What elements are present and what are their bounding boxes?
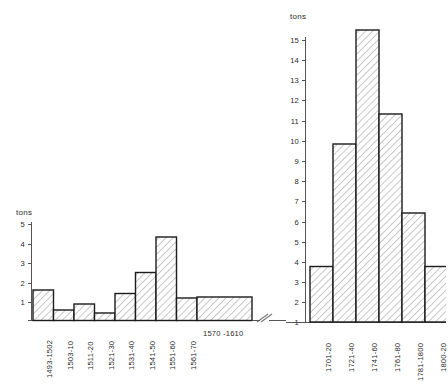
left-xtick-label-1511-20: 1511-20 (87, 341, 95, 370)
right-ytick-label-10: 10 (285, 138, 299, 146)
bar-1551-60 (156, 237, 177, 321)
left-ytick-label-3: 3 (14, 260, 25, 268)
bar-1570-1610 (197, 297, 252, 321)
right-ytick-label-8: 8 (285, 178, 299, 186)
axis-break-marker (252, 314, 286, 322)
left-y-axis-unit-label: tons (16, 209, 32, 217)
bar-1781-1800 (402, 213, 425, 322)
left-xtick-label-1493-1502: 1493-1502 (46, 340, 54, 378)
right-y-axis-unit-label: tons (290, 13, 306, 21)
right-ytick-label-5: 5 (285, 239, 299, 247)
bar-1741-60 (356, 30, 379, 322)
bar-1701-20 (310, 267, 333, 323)
right-ytick-label-14: 14 (285, 57, 299, 65)
bar-1521-30 (95, 313, 116, 321)
left-xtick-label-1503-10: 1503-10 (67, 341, 75, 370)
bar-1531-40 (115, 294, 136, 321)
right-ytick-label-9: 9 (285, 158, 299, 166)
right-xtick-label-1781-1800: 1781-1800 (417, 343, 425, 381)
right-xtick-label-1741-60: 1741-60 (371, 343, 379, 372)
bar-1761-80 (379, 114, 402, 322)
bar-1541-50 (136, 273, 157, 321)
right-ytick-label-6: 6 (285, 219, 299, 227)
bar-1503-10 (54, 310, 75, 321)
right-ytick-label-12: 12 (285, 97, 299, 105)
right-xtick-label-1701-20: 1701-20 (325, 343, 333, 372)
left-panel-bars (33, 237, 252, 321)
right-ytick-label-4: 4 (285, 259, 299, 267)
right-ytick-label-13: 13 (285, 77, 299, 85)
right-ytick-label-2: 2 (285, 299, 299, 307)
bar-1511-20 (74, 304, 95, 321)
left-xtick-label-1531-40: 1531-40 (128, 341, 136, 370)
left-xtick-label-1551-60: 1551-60 (169, 341, 177, 370)
left-xtick-label-1570-1610: 1570 -1610 (203, 330, 243, 338)
bar-1800-20 (425, 267, 446, 323)
left-ytick-label-5: 5 (14, 221, 25, 229)
right-xtick-label-1721-40: 1721-40 (348, 343, 356, 372)
right-ytick-label-15: 15 (285, 37, 299, 45)
bar-1721-40 (333, 144, 356, 322)
right-ytick-label-3: 3 (285, 279, 299, 287)
right-xtick-label-1800-20: 1800-20 (440, 343, 448, 372)
bar-1493-1502 (33, 290, 54, 321)
right-panel-bars (310, 30, 446, 322)
left-ytick-label-1: 1 (14, 299, 25, 307)
right-ytick-label-1: 1 (285, 319, 299, 327)
right-ytick-label-7: 7 (285, 198, 299, 206)
left-xtick-label-1541-50: 1541-50 (149, 341, 157, 370)
left-xtick-label-1561-70: 1561-70 (190, 341, 198, 370)
left-xtick-label-1521-30: 1521-30 (108, 341, 116, 370)
left-ytick-label-4: 4 (14, 241, 25, 249)
bar-1561-70 (177, 298, 198, 321)
left-ytick-label-2: 2 (14, 280, 25, 288)
right-ytick-label-11: 11 (285, 118, 299, 126)
right-xtick-label-1761-80: 1761-80 (394, 343, 402, 372)
